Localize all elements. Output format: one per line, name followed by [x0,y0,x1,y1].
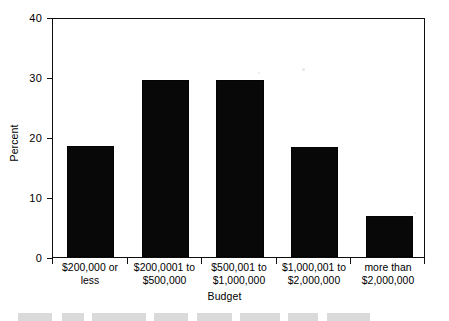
x-tick-label-1: $200,0001 to $500,000 [122,262,207,287]
y-tick-label-0: 0 [16,253,42,264]
x-tick-label-0-line2: less [48,275,132,288]
x-axis-title: Budget [0,290,449,302]
x-tick-label-1-line1: $200,0001 to [134,262,195,273]
y-tick-label-10: 10 [16,193,42,204]
x-tick-label-3-line1: $1,000,001 to [282,262,346,273]
bar-2 [216,80,264,257]
page-caption-ghost [18,313,418,321]
plot-area [52,18,425,258]
x-tick-label-4: more than $2,000,000 [345,262,431,287]
bar-0 [67,146,114,257]
bar-3 [291,147,338,257]
x-tick-label-0-line1: $200,000 or [62,262,118,273]
bar-1 [142,80,189,257]
scan-speck [414,212,416,214]
y-tick-label-30: 30 [16,73,42,84]
y-tick-label-20: 20 [16,133,42,144]
scan-speck [302,68,305,71]
bar-4 [366,216,413,257]
x-tick-label-1-line2: $500,000 [122,275,207,288]
bar-chart-figure: Percent 40 30 20 10 0 $200,000 or less $… [0,0,449,321]
x-tick-label-4-line1: more than [364,262,411,273]
scan-speck [258,72,260,74]
y-tick-label-40: 40 [16,13,42,24]
x-tick-label-2-line1: $500,001 to [211,262,266,273]
x-tick-label-4-line2: $2,000,000 [345,275,431,288]
x-tick-label-0: $200,000 or less [48,262,132,287]
